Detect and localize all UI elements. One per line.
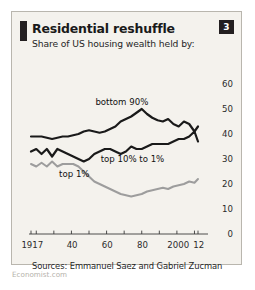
plot-area (12, 56, 243, 240)
page-title: Residential reshuffle (32, 21, 175, 36)
series-line (31, 162, 198, 197)
axis-layer (29, 231, 208, 234)
x-axis-tick-label: 80 (137, 241, 148, 250)
chart-card: Residential reshuffle Share of US housin… (11, 11, 242, 265)
title-accent-bar (20, 21, 27, 41)
series-line (31, 109, 198, 139)
series-layer (31, 109, 198, 197)
x-axis-labels: 1917406080200012 (12, 241, 243, 255)
x-axis-tick-label: 12 (193, 241, 204, 250)
series-label-bottom-90-: bottom 90% (95, 98, 148, 107)
y-axis-tick-label: 40 (213, 130, 233, 139)
series-label-top-10-to-1-: top 10% to 1% (101, 155, 165, 164)
chart-screenshot: Residential reshuffle Share of US housin… (0, 0, 255, 290)
y-axis-tick-label: 10 (213, 205, 233, 214)
y-axis-tick-label: 60 (213, 80, 233, 89)
series-label-top-1-: top 1% (59, 170, 89, 179)
x-axis-tick-label: 40 (67, 241, 78, 250)
x-axis-tick-label: 2000 (167, 241, 189, 250)
status-badge: 3 (219, 20, 234, 34)
x-axis-tick-label: 60 (102, 241, 113, 250)
y-axis-labels: 0102030405060 (212, 56, 236, 240)
chart-subtitle: Share of US housing wealth held by: (32, 38, 195, 49)
chart-svg (12, 56, 243, 240)
x-axis-tick-label: 1917 (21, 241, 43, 250)
y-axis-tick-label: 50 (213, 105, 233, 114)
y-axis-tick-label: 30 (213, 155, 233, 164)
y-axis-tick-label: 0 (213, 230, 233, 239)
watermark: Economist.com (12, 270, 67, 279)
y-axis-tick-label: 20 (213, 180, 233, 189)
